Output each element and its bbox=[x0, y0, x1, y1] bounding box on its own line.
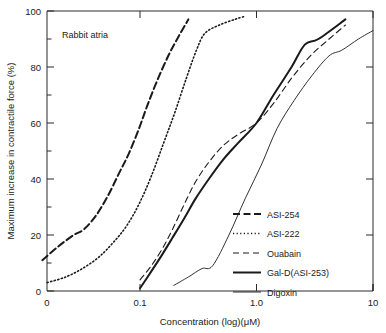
y-axis-title: Maximum increase in contractile force (%… bbox=[5, 63, 16, 240]
legend-label-asi-222: ASI-222 bbox=[267, 229, 300, 239]
x-tick-label: 0.1 bbox=[133, 297, 146, 308]
legend-label-asi-254: ASI-254 bbox=[267, 210, 300, 220]
y-tick-label: 40 bbox=[30, 174, 41, 185]
x-tick-label: 1.0 bbox=[250, 297, 263, 308]
x-axis-title: Concentration (log)(μM) bbox=[160, 316, 261, 327]
x-tick-label: 0 bbox=[44, 297, 49, 308]
y-tick-label: 60 bbox=[30, 118, 41, 129]
figure-container: 020406080100 00.11.010 Concentration (lo… bbox=[0, 0, 386, 333]
plot-annotation: Rabbit atria bbox=[62, 30, 108, 40]
y-tick-label: 100 bbox=[25, 6, 41, 17]
dose-response-chart: 020406080100 00.11.010 Concentration (lo… bbox=[0, 0, 386, 333]
legend-label-ouabain: Ouabain bbox=[267, 249, 301, 259]
y-tick-label: 0 bbox=[36, 286, 41, 297]
chart-background bbox=[0, 0, 386, 333]
legend-label-gal-d-asi-253: Gal-D(ASI-253) bbox=[267, 268, 329, 278]
y-tick-label: 80 bbox=[30, 62, 41, 73]
y-tick-label: 20 bbox=[30, 230, 41, 241]
legend-label-digoxin: Digoxin bbox=[267, 288, 297, 298]
x-tick-label: 10 bbox=[368, 297, 379, 308]
